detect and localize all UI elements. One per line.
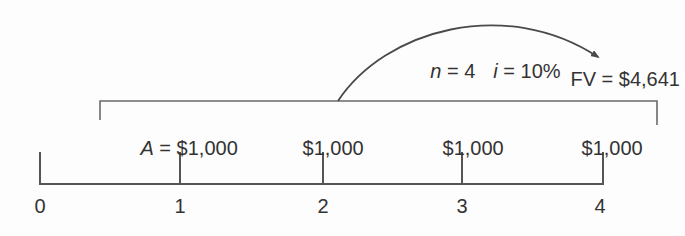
rate-annotation: n = 4i = 10% bbox=[408, 38, 561, 104]
payment-label-3: $1,000 bbox=[420, 115, 503, 181]
period-label-3: 3 bbox=[456, 195, 467, 217]
future-value-label: FV = $4,641 bbox=[570, 68, 680, 90]
payment-label-4: $1,000 bbox=[559, 115, 642, 181]
cash-flow-diagram: n = 4i = 10% FV = $4,641 A = $1,000 $1,0… bbox=[0, 0, 685, 236]
period-label-1: 1 bbox=[174, 195, 185, 217]
interest-value: = 10% bbox=[498, 60, 561, 82]
payment-label-2: $1,000 bbox=[280, 115, 363, 181]
periods-variable: n bbox=[430, 60, 441, 82]
period-label-2: 2 bbox=[317, 195, 328, 217]
period-label-0: 0 bbox=[34, 195, 45, 217]
payment-amount: $1,000 bbox=[443, 137, 504, 159]
periods-value: = 4 bbox=[441, 60, 475, 82]
payment-amount: = $1,000 bbox=[154, 137, 238, 159]
payment-amount: $1,000 bbox=[303, 137, 364, 159]
payment-label-1: A = $1,000 bbox=[118, 115, 238, 181]
payment-amount: $1,000 bbox=[582, 137, 643, 159]
period-label-4: 4 bbox=[594, 195, 605, 217]
annuity-variable: A bbox=[140, 137, 153, 159]
